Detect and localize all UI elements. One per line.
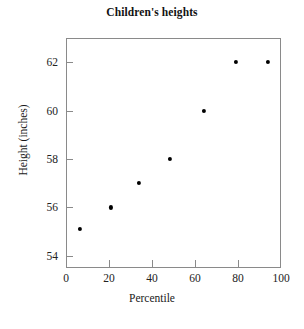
data-point (137, 181, 141, 185)
y-axis-title: Height (inches) (17, 70, 29, 210)
x-axis-title: Percentile (0, 292, 304, 304)
y-axis-tick (66, 159, 73, 160)
data-point (202, 109, 206, 113)
y-axis-tick (66, 207, 73, 208)
y-axis-tick (66, 111, 73, 112)
y-axis-tick-label: 54 (14, 250, 58, 262)
x-axis-tick-label: 0 (46, 272, 86, 284)
data-point (168, 157, 172, 161)
x-axis-tick-label: 20 (89, 272, 129, 284)
x-axis-tick (152, 260, 153, 268)
y-axis-tick (66, 62, 73, 63)
x-axis-tick-label: 60 (175, 272, 215, 284)
data-point (266, 60, 270, 64)
data-point (109, 205, 113, 209)
scatter-chart-figure: Children's heights 545658606202040608010… (0, 0, 304, 329)
x-axis-tick-label: 100 (261, 272, 301, 284)
x-axis-tick-label: 80 (218, 272, 258, 284)
x-axis-tick-label: 40 (132, 272, 172, 284)
x-axis-tick (195, 260, 196, 268)
plot-area (66, 38, 281, 268)
y-axis-tick-label: 62 (14, 56, 58, 68)
x-axis-tick (109, 260, 110, 268)
data-point (234, 60, 238, 64)
chart-title: Children's heights (0, 6, 304, 18)
x-axis-tick (238, 260, 239, 268)
data-point (78, 227, 82, 231)
y-axis-tick (66, 256, 73, 257)
